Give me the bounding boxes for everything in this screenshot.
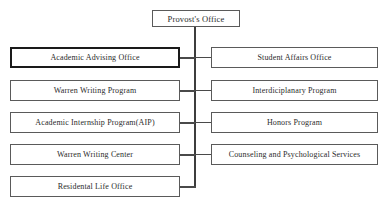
connector-right-2 [195,90,211,91]
node-honors-program[interactable]: Honors Program [211,112,378,133]
node-label: Academic Advising Office [50,53,139,62]
node-academic-advising-office[interactable]: Academic Advising Office [10,47,180,68]
node-counseling-psychological-services[interactable]: Counseling and Psychological Services [211,144,378,165]
node-academic-internship-program[interactable]: Academic Internship Program(AIP) [10,112,180,133]
node-label: Residental Life Office [58,182,133,191]
node-label: Counseling and Psychological Services [229,150,361,159]
node-label: Warren Writing Center [57,150,133,159]
node-provosts-office[interactable]: Provost's Office [152,10,240,27]
node-label: Provost's Office [168,14,225,24]
connector-left-5 [180,186,196,188]
connector-right-3 [195,122,211,123]
node-label: Student Affairs Office [257,53,331,62]
connector-left-2 [180,90,195,92]
connector-left-3 [180,122,195,124]
connector-left-4 [180,154,195,156]
node-interdiciplanary-program[interactable]: Interdiciplanary Program [211,80,378,101]
node-residental-life-office[interactable]: Residental Life Office [10,176,180,197]
connector-left-1 [180,57,195,59]
org-chart: Provost's Office Academic Advising Offic… [0,0,388,213]
node-label: Warren Writing Program [54,86,137,95]
node-label: Interdiciplanary Program [252,86,336,95]
connector-right-1 [195,57,211,58]
node-label: Honors Program [267,118,322,127]
connector-right-4 [195,154,211,155]
node-warren-writing-center[interactable]: Warren Writing Center [10,144,180,165]
node-warren-writing-program[interactable]: Warren Writing Program [10,80,180,101]
node-label: Academic Internship Program(AIP) [35,118,154,127]
node-student-affairs-office[interactable]: Student Affairs Office [211,47,378,68]
spine-vertical-connector [194,27,196,188]
